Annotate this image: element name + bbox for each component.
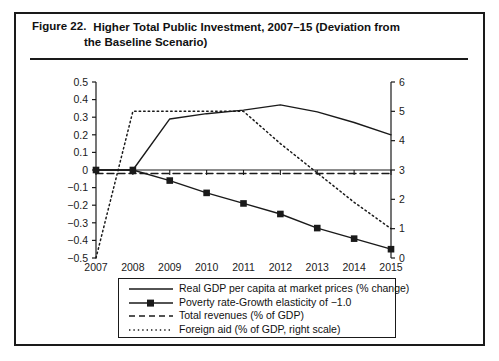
series-marker — [203, 190, 210, 197]
series-marker — [93, 167, 100, 174]
legend-label-total-revenues: Total revenues (% of GDP) — [179, 309, 304, 323]
left-axis-tick-label: 0.4 — [73, 93, 88, 105]
series-marker — [388, 246, 395, 253]
series-marker — [130, 167, 137, 174]
x-axis-tick-label: 2011 — [232, 261, 255, 273]
left-axis-tick-label: −0.2 — [67, 199, 88, 211]
left-axis-tick-label: 0.1 — [73, 146, 88, 158]
series-marker — [351, 235, 358, 242]
left-axis-tick-label: 0.5 — [73, 76, 88, 88]
series-marker — [277, 211, 284, 218]
left-axis-tick-label: −0.3 — [67, 217, 88, 229]
legend-swatch-solid-line — [123, 282, 179, 296]
series-line-0 — [96, 105, 391, 170]
x-axis-tick-label: 2014 — [342, 261, 366, 273]
legend-label-foreign-aid: Foreign aid (% of GDP, right scale) — [179, 323, 340, 337]
figure-page: Figure 22. Higher Total Public Investmen… — [0, 0, 499, 361]
legend-item-poverty-rate: Poverty rate-Growth elasticity of −1.0 — [123, 296, 391, 310]
x-axis-tick-label: 2015 — [379, 261, 403, 273]
right-axis-tick-label: 1 — [399, 222, 405, 234]
legend-swatch-dashed-line — [123, 309, 179, 323]
x-axis-tick-label: 2010 — [195, 261, 219, 273]
series-line-1 — [96, 170, 391, 249]
x-axis-tick-label: 2012 — [269, 261, 293, 273]
left-axis-tick-label: 0.3 — [73, 111, 88, 123]
right-axis-tick-label: 3 — [399, 164, 405, 176]
chart-legend: Real GDP per capita at market prices (% … — [118, 278, 396, 338]
series-marker — [166, 177, 173, 184]
x-axis-tick-label: 2008 — [121, 261, 145, 273]
x-axis-tick-label: 2013 — [306, 261, 330, 273]
x-axis-tick-label: 2007 — [84, 261, 108, 273]
legend-swatch-square-marker-line — [123, 296, 179, 310]
left-axis-tick-label: 0.2 — [73, 129, 88, 141]
right-axis-tick-label: 5 — [399, 105, 405, 117]
left-axis-tick-label: 0 — [82, 164, 88, 176]
series-marker — [240, 200, 247, 207]
right-axis-tick-label: 4 — [399, 134, 405, 146]
legend-label-real-gdp: Real GDP per capita at market prices (% … — [179, 282, 409, 296]
right-axis-tick-label: 6 — [399, 76, 405, 88]
x-axis-tick-label: 2009 — [158, 261, 182, 273]
legend-item-real-gdp: Real GDP per capita at market prices (% … — [123, 282, 391, 296]
legend-item-total-revenues: Total revenues (% of GDP) — [123, 309, 391, 323]
right-axis-tick-label: 2 — [399, 193, 405, 205]
legend-item-foreign-aid: Foreign aid (% of GDP, right scale) — [123, 323, 391, 337]
series-marker — [314, 225, 321, 232]
left-axis-tick-label: −0.1 — [67, 181, 88, 193]
legend-swatch-dotted-line — [123, 323, 179, 337]
left-axis-tick-label: −0.4 — [67, 234, 88, 246]
legend-label-poverty-rate: Poverty rate-Growth elasticity of −1.0 — [179, 296, 351, 310]
